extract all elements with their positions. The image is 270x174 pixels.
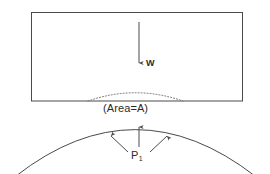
pressure-label: P1 bbox=[131, 150, 142, 161]
diagram-canvas: W (Area=A) P1 bbox=[0, 0, 270, 174]
diagram-graphics bbox=[0, 0, 270, 174]
contact-area-label: (Area=A) bbox=[103, 103, 148, 114]
pressure-arrow-right bbox=[150, 136, 167, 152]
block-rectangle bbox=[32, 13, 243, 102]
pressure-label-symbol: P bbox=[131, 149, 138, 161]
pressure-arrow-left bbox=[111, 136, 128, 152]
contact-area-arc bbox=[88, 93, 183, 101]
pressure-label-subscript: 1 bbox=[139, 155, 143, 162]
weight-label: W bbox=[146, 59, 155, 68]
